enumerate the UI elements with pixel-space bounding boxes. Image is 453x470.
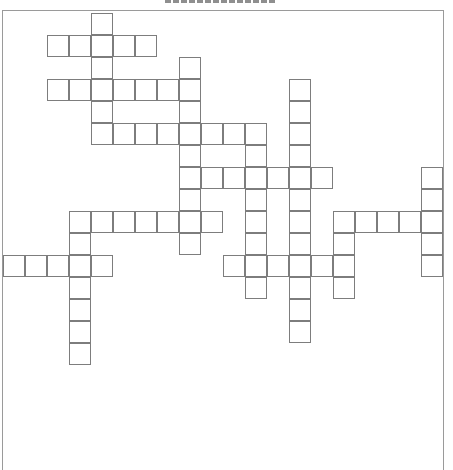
crossword-cell[interactable] bbox=[421, 211, 443, 233]
crossword-cell[interactable] bbox=[69, 277, 91, 299]
crossword-cell[interactable] bbox=[91, 13, 113, 35]
crossword-cell[interactable] bbox=[179, 79, 201, 101]
crossword-cell[interactable] bbox=[267, 255, 289, 277]
crossword-cell[interactable] bbox=[421, 189, 443, 211]
crossword-cell[interactable] bbox=[289, 233, 311, 255]
crossword-cell[interactable] bbox=[377, 211, 399, 233]
crossword-cell[interactable] bbox=[245, 189, 267, 211]
crossword-cell[interactable] bbox=[179, 145, 201, 167]
crossword-cell[interactable] bbox=[25, 255, 47, 277]
crossword-cell[interactable] bbox=[91, 35, 113, 57]
crossword-cell[interactable] bbox=[201, 123, 223, 145]
crossword-cell[interactable] bbox=[91, 101, 113, 123]
crossword-cell[interactable] bbox=[69, 321, 91, 343]
crossword-cell[interactable] bbox=[421, 167, 443, 189]
crossword-cell[interactable] bbox=[69, 255, 91, 277]
crossword-cell[interactable] bbox=[135, 79, 157, 101]
crossword-cell[interactable] bbox=[289, 211, 311, 233]
crossword-cell[interactable] bbox=[201, 211, 223, 233]
crossword-cell[interactable] bbox=[333, 255, 355, 277]
crossword-cell[interactable] bbox=[47, 35, 69, 57]
crossword-cell[interactable] bbox=[113, 211, 135, 233]
crossword-cell[interactable] bbox=[179, 123, 201, 145]
crossword-cell[interactable] bbox=[201, 167, 223, 189]
crossword-cell[interactable] bbox=[333, 277, 355, 299]
crossword-cell[interactable] bbox=[179, 167, 201, 189]
crossword-cell[interactable] bbox=[113, 79, 135, 101]
crossword-cell[interactable] bbox=[421, 255, 443, 277]
crossword-cell[interactable] bbox=[47, 79, 69, 101]
crossword-cell[interactable] bbox=[399, 211, 421, 233]
crossword-cell[interactable] bbox=[355, 211, 377, 233]
crossword-cell[interactable] bbox=[135, 123, 157, 145]
crossword-cell[interactable] bbox=[245, 233, 267, 255]
crossword-cell[interactable] bbox=[223, 167, 245, 189]
crossword-cell[interactable] bbox=[91, 123, 113, 145]
crossword-cell[interactable] bbox=[157, 123, 179, 145]
crossword-cell[interactable] bbox=[69, 79, 91, 101]
crossword-cell[interactable] bbox=[113, 123, 135, 145]
crossword-cell[interactable] bbox=[245, 255, 267, 277]
crossword-cell[interactable] bbox=[179, 233, 201, 255]
crossword-cell[interactable] bbox=[421, 233, 443, 255]
crossword-cell[interactable] bbox=[289, 299, 311, 321]
crossword-cell[interactable] bbox=[91, 211, 113, 233]
crossword-cell[interactable] bbox=[223, 123, 245, 145]
crossword-cell[interactable] bbox=[333, 233, 355, 255]
crossword-cell[interactable] bbox=[223, 255, 245, 277]
crossword-cell[interactable] bbox=[157, 211, 179, 233]
crossword-cell[interactable] bbox=[69, 299, 91, 321]
crossword-cell[interactable] bbox=[135, 35, 157, 57]
puzzle-title-clipped bbox=[165, 0, 275, 3]
crossword-cell[interactable] bbox=[69, 343, 91, 365]
crossword-cell[interactable] bbox=[157, 79, 179, 101]
crossword-cell[interactable] bbox=[47, 255, 69, 277]
crossword-cell[interactable] bbox=[289, 255, 311, 277]
crossword-cell[interactable] bbox=[245, 123, 267, 145]
crossword-cell[interactable] bbox=[179, 57, 201, 79]
crossword-cell[interactable] bbox=[69, 211, 91, 233]
crossword-cell[interactable] bbox=[289, 189, 311, 211]
crossword-cell[interactable] bbox=[179, 211, 201, 233]
crossword-cell[interactable] bbox=[289, 79, 311, 101]
crossword-cell[interactable] bbox=[69, 233, 91, 255]
crossword-cell[interactable] bbox=[289, 277, 311, 299]
crossword-cell[interactable] bbox=[91, 57, 113, 79]
crossword-cell[interactable] bbox=[333, 211, 355, 233]
crossword-cell[interactable] bbox=[91, 255, 113, 277]
crossword-cell[interactable] bbox=[245, 145, 267, 167]
crossword-cell[interactable] bbox=[245, 211, 267, 233]
crossword-cell[interactable] bbox=[267, 167, 289, 189]
crossword-cell[interactable] bbox=[311, 167, 333, 189]
crossword-cell[interactable] bbox=[289, 123, 311, 145]
crossword-cell[interactable] bbox=[289, 145, 311, 167]
crossword-cell[interactable] bbox=[289, 167, 311, 189]
crossword-cell[interactable] bbox=[289, 321, 311, 343]
crossword-cell[interactable] bbox=[91, 79, 113, 101]
crossword-cell[interactable] bbox=[245, 277, 267, 299]
crossword-cell[interactable] bbox=[113, 35, 135, 57]
crossword-cell[interactable] bbox=[69, 35, 91, 57]
crossword-cell[interactable] bbox=[179, 101, 201, 123]
crossword-cell[interactable] bbox=[135, 211, 157, 233]
crossword-cell[interactable] bbox=[3, 255, 25, 277]
crossword-cell[interactable] bbox=[245, 167, 267, 189]
crossword-cell[interactable] bbox=[289, 101, 311, 123]
crossword-cell[interactable] bbox=[179, 189, 201, 211]
crossword-cell[interactable] bbox=[311, 255, 333, 277]
